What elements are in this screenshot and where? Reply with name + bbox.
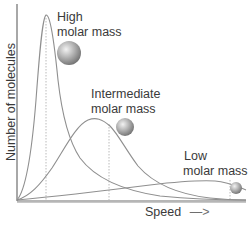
low-mass-label-line1: Low <box>183 149 248 164</box>
low-mass-label: Low molar mass <box>183 149 248 179</box>
y-axis-label: Number of molecules <box>4 42 18 162</box>
x-axis-label-text: Speed <box>145 205 181 219</box>
intermediate-mass-label-line2: molar mass <box>91 102 160 117</box>
high-mass-sphere-icon <box>57 41 81 65</box>
intermediate-mass-sphere-icon <box>116 118 134 136</box>
low-mass-label-line2: molar mass <box>183 164 248 179</box>
intermediate-mass-label: Intermediate molar mass <box>91 87 160 117</box>
high-mass-label-line1: High <box>57 10 122 25</box>
low-mass-sphere-icon <box>230 182 242 194</box>
high-mass-label-line2: molar mass <box>57 25 122 40</box>
intermediate-mass-label-line1: Intermediate <box>91 87 160 102</box>
arrow-right-icon: —> <box>190 205 210 219</box>
x-axis-label: Speed —> <box>145 205 209 219</box>
high-mass-label: High molar mass <box>57 10 122 40</box>
